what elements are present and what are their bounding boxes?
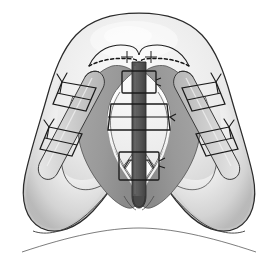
columellar-suture-middle bbox=[108, 104, 176, 130]
nasal-base-illustration bbox=[0, 0, 278, 267]
dome-highlight-core bbox=[104, 26, 152, 46]
columellar-suture-lower bbox=[119, 152, 165, 180]
figure-container: Nasal base view with lateral crural stru… bbox=[0, 0, 278, 267]
columellar-suture-upper bbox=[122, 71, 161, 93]
